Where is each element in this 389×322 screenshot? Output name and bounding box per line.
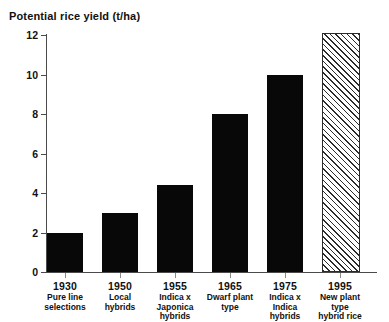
x-label-desc-1950: Local hybrids — [93, 293, 147, 312]
x-label-year-1930: 1930 — [38, 281, 92, 292]
y-tick-8 — [41, 114, 46, 115]
x-label-year-1965: 1965 — [203, 281, 257, 292]
bar-1975 — [267, 75, 303, 273]
y-tick-label-6: 6 — [4, 148, 38, 159]
x-tick-1995 — [340, 273, 341, 278]
x-label-year-1995: 1995 — [313, 281, 367, 292]
y-tick-4 — [41, 193, 46, 194]
y-tick-label-12: 12 — [4, 30, 38, 41]
x-tick-1975 — [285, 273, 286, 278]
x-label-1950: 1950Local hybrids — [93, 281, 147, 312]
y-tick-label-2: 2 — [4, 227, 38, 238]
y-tick-10 — [41, 75, 46, 76]
x-tick-1955 — [175, 273, 176, 278]
bar-1950 — [102, 213, 138, 272]
y-tick-12 — [41, 35, 46, 36]
y-tick-0 — [41, 272, 46, 273]
x-label-1955: 1955Indica x Japonica hybrids — [148, 281, 202, 322]
x-axis-line — [46, 272, 377, 273]
bar-1995 — [322, 33, 360, 272]
x-label-1930: 1930Pure line selections — [38, 281, 92, 312]
x-label-year-1955: 1955 — [148, 281, 202, 292]
x-label-1975: 1975Indica x Indica hybrids — [258, 281, 312, 322]
y-tick-6 — [41, 154, 46, 155]
bar-1930 — [47, 233, 83, 273]
x-label-desc-1955: Indica x Japonica hybrids — [148, 293, 202, 322]
x-label-year-1975: 1975 — [258, 281, 312, 292]
y-tick-label-4: 4 — [4, 188, 38, 199]
chart-title: Potential rice yield (t/ha) — [9, 10, 140, 22]
y-tick-label-0: 0 — [4, 267, 38, 278]
x-label-1965: 1965Dwarf plant type — [203, 281, 257, 312]
bar-1955 — [157, 185, 193, 272]
y-tick-2 — [41, 233, 46, 234]
x-label-1995: 1995New plant type hybrid rice — [313, 281, 367, 322]
x-label-desc-1975: Indica x Indica hybrids — [258, 293, 312, 322]
x-tick-1930 — [65, 273, 66, 278]
bar-1965 — [212, 114, 248, 272]
x-label-desc-1965: Dwarf plant type — [203, 293, 257, 312]
x-label-desc-1995: New plant type hybrid rice — [313, 293, 367, 322]
x-label-year-1950: 1950 — [93, 281, 147, 292]
x-label-desc-1930: Pure line selections — [38, 293, 92, 312]
x-tick-1965 — [230, 273, 231, 278]
y-tick-label-8: 8 — [4, 109, 38, 120]
y-tick-label-10: 10 — [4, 69, 38, 80]
x-tick-1950 — [120, 273, 121, 278]
